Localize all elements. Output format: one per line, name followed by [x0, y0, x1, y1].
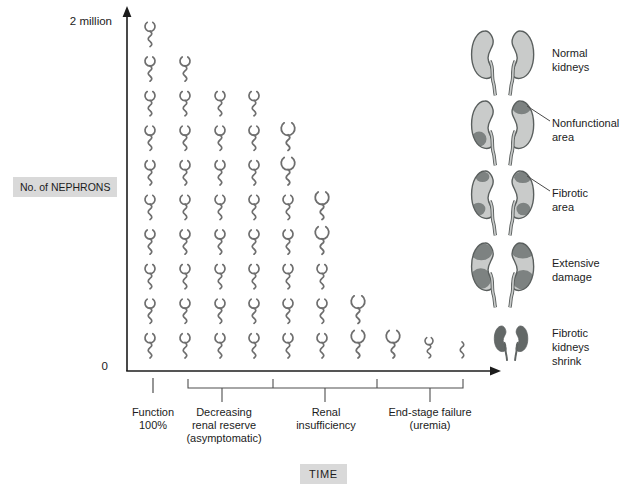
nephron-glyph [180, 265, 190, 289]
nephron-glyph [145, 265, 155, 289]
nephron-column-8 [386, 330, 400, 358]
stage-label-fibrotic-area: Fibrotic area [552, 186, 622, 214]
stage-label-extensive-damage: Extensive damage [552, 256, 622, 284]
kidney [510, 242, 534, 307]
nephron-glyph [283, 334, 293, 358]
nephron-glyph [249, 92, 259, 116]
y-axis-arrowhead [123, 6, 132, 17]
nephron-glyph [180, 161, 190, 185]
y-axis-max-label: 2 million [38, 15, 112, 29]
kidney [470, 243, 495, 307]
phase-brackets [153, 378, 463, 402]
kidney [494, 326, 507, 361]
nephron-glyph [215, 195, 225, 219]
nephron-glyph [249, 230, 259, 254]
nephron-glyph [460, 342, 464, 358]
nephron-glyph [315, 227, 329, 255]
nephron-glyph [215, 92, 225, 116]
nephron-glyph [145, 161, 155, 185]
stage-label-normal-kidneys: Normal kidneys [552, 46, 622, 74]
nephron-glyph [249, 299, 259, 323]
y-axis-zero-label: 0 [90, 360, 108, 374]
nephron-glyph [249, 161, 259, 185]
nephron-glyph [180, 126, 190, 150]
kidney-pair-fibrotic-kidneys-shrink [494, 326, 527, 361]
nephron-column-6 [315, 192, 329, 358]
nephron-glyph [180, 195, 190, 219]
nephron-column-10 [460, 342, 464, 358]
stage-label-fibrotic-kidneys-shrink: Fibrotic kidneys shrink [552, 326, 622, 368]
nephron-glyph [145, 195, 155, 219]
y-axis-title-box: No. of NEPHRONS [13, 177, 117, 197]
nephron-glyph [317, 265, 327, 289]
nephron-column-5 [281, 123, 295, 358]
kidney-pair-normal-kidneys [472, 31, 534, 95]
phase-label-renal-insufficiency: Renal insufficiency [276, 406, 376, 432]
nephron-glyph [425, 338, 433, 358]
stage-label-nonfunctional-area: Nonfunctional area [552, 116, 622, 144]
kidney [510, 101, 534, 165]
nephron-column-2 [180, 57, 190, 358]
nephron-glyph [145, 299, 155, 323]
nephron-glyph [145, 126, 155, 150]
nephron-glyph [386, 330, 400, 358]
kidney-pair-nonfunctional-area [472, 101, 550, 165]
nephron-glyph [145, 22, 155, 46]
nephron-column-3 [215, 92, 225, 358]
nephron-glyph [180, 230, 190, 254]
nephron-glyph [315, 192, 329, 220]
kidney-pair-extensive-damage [470, 242, 534, 307]
nephron-glyph [283, 299, 293, 323]
nephron-column-4 [249, 92, 259, 358]
damage-patch [476, 172, 490, 182]
nephron-glyph [180, 92, 190, 116]
phase-label-decreasing-renal-reserve: Decreasing renal reserve (asymptomatic) [164, 406, 284, 445]
nephron-glyph [145, 92, 155, 116]
nephron-glyph [215, 126, 225, 150]
nephron-glyph [215, 161, 225, 185]
nephron-glyph [249, 265, 259, 289]
nephron-glyph [351, 330, 365, 358]
nephron-glyph [283, 265, 293, 289]
nephron-glyph [249, 126, 259, 150]
nephron-glyph [351, 296, 365, 324]
nephron-glyph [281, 157, 295, 185]
x-axis-arrowhead [490, 367, 501, 376]
nephron-glyph [215, 230, 225, 254]
nephron-glyph [180, 57, 190, 81]
nephron-glyph [180, 334, 190, 358]
kidney [472, 101, 496, 165]
kidney [472, 31, 496, 95]
nephron-column-1 [145, 22, 155, 358]
figure-root: 2 million 0 No. of NEPHRONS TIME Functio… [0, 0, 622, 492]
nephron-glyph [249, 334, 259, 358]
nephron-glyph [145, 334, 155, 358]
nephron-glyph [317, 299, 327, 323]
kidney [510, 31, 534, 95]
nephron-glyph [283, 195, 293, 219]
nephron-glyph [283, 230, 293, 254]
nephron-glyph [145, 230, 155, 254]
nephron-glyph [249, 195, 259, 219]
kidney-pair-fibrotic-area [472, 171, 550, 235]
nephron-column-7 [351, 296, 365, 358]
kidney [472, 171, 496, 235]
nephron-glyph [145, 57, 155, 81]
x-axis-title-box: TIME [300, 464, 347, 484]
nephron-column-9 [425, 338, 433, 358]
nephron-glyph [215, 265, 225, 289]
nephron-glyph [281, 123, 295, 151]
phase-label-end-stage-failure: End-stage failure (uremia) [370, 406, 490, 432]
nephron-glyph [317, 334, 327, 358]
nephron-glyph [215, 334, 225, 358]
kidney [515, 326, 528, 361]
nephron-glyph [180, 299, 190, 323]
kidney [510, 171, 534, 235]
nephron-glyph [215, 299, 225, 323]
